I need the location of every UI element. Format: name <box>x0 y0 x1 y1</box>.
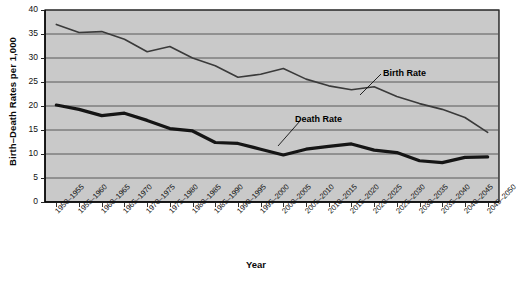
y-tick-label: 25 <box>12 76 38 86</box>
y-tick-mark <box>41 202 45 203</box>
y-tick-mark <box>41 58 45 59</box>
y-tick-mark <box>41 106 45 107</box>
series-label-death-rate: Death Rate <box>295 114 342 124</box>
x-axis-title: Year <box>0 259 512 270</box>
y-tick-label: 15 <box>12 124 38 134</box>
y-tick-mark <box>41 10 45 11</box>
y-tick-label: 30 <box>12 52 38 62</box>
y-tick-label: 20 <box>12 100 38 110</box>
y-tick-label: 40 <box>12 4 38 14</box>
y-tick-label: 10 <box>12 148 38 158</box>
y-tick-mark <box>41 82 45 83</box>
y-tick-label: 0 <box>12 196 38 206</box>
y-tick-label: 35 <box>12 28 38 38</box>
y-tick-mark <box>41 130 45 131</box>
y-tick-mark <box>41 34 45 35</box>
y-tick-mark <box>41 178 45 179</box>
series-label-birth-rate: Birth Rate <box>383 68 426 78</box>
y-tick-mark <box>41 154 45 155</box>
y-tick-label: 5 <box>12 172 38 182</box>
